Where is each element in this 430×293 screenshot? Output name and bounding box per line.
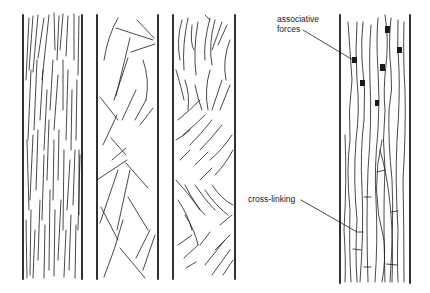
associative-forces-label: associative forces: [277, 14, 319, 34]
associative-forces-label-line2: forces: [277, 24, 319, 34]
fibre-diagram: [0, 0, 430, 293]
panel-aligned-fibres: [23, 13, 82, 279]
cross-linking-label: cross-linking: [248, 194, 295, 204]
panel-crosslinked-fibres: [340, 15, 410, 283]
panel-random-fibres: [97, 15, 158, 279]
cross-linking-pointer: [301, 200, 357, 232]
associative-forces-label-line1: associative: [277, 14, 319, 24]
panel-wavy-fibres: [173, 15, 235, 279]
associative-forces-pointer: [303, 30, 353, 60]
